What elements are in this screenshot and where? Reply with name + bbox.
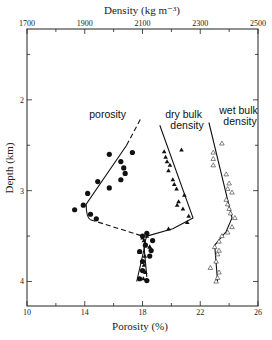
top-tick-label: 1700 <box>19 19 35 28</box>
porosity-point <box>150 238 155 243</box>
porosity-trend-dashed <box>91 220 143 236</box>
wet-density-trend-line <box>209 123 232 282</box>
dry-density-point <box>181 206 186 210</box>
series-label-wet-bulk: wet bulk density <box>218 104 260 127</box>
wet-density-point <box>208 265 213 269</box>
dry-density-point <box>166 226 171 230</box>
dry-density-point <box>186 214 191 218</box>
top-tick-label: 1900 <box>77 19 93 28</box>
left-tick-label: 3 <box>20 187 24 196</box>
porosity-point <box>130 150 135 155</box>
left-tick-label: 4 <box>20 277 24 286</box>
bottom-tick-label: 18 <box>139 308 147 317</box>
top-tick-label: 2300 <box>192 19 208 28</box>
dry-density-point <box>168 163 173 167</box>
labels: Density (kg m⁻³) Porosity (%) Depth (km)… <box>3 4 261 333</box>
wet-density-point <box>227 206 232 210</box>
dry-density-point <box>171 177 176 181</box>
wet-density-point <box>212 245 217 249</box>
dry-density-point <box>176 199 181 203</box>
porosity-point <box>118 177 123 182</box>
wet-density-point <box>230 225 235 229</box>
porosity-point <box>149 248 154 253</box>
bottom-tick-label: 26 <box>254 308 262 317</box>
wet-density-point <box>217 270 222 274</box>
chart: 170019002100230025001014182226234 Densit… <box>0 0 272 340</box>
wet-density-point <box>233 216 238 220</box>
bottom-tick-label: 22 <box>196 308 204 317</box>
porosity-point <box>72 207 77 212</box>
wet-density-point <box>225 186 230 190</box>
bottom-axis-title: Porosity (%) <box>112 320 168 333</box>
porosity-point <box>144 278 149 283</box>
porosity-trend-dashed <box>127 118 142 145</box>
wet-density-point <box>224 172 229 176</box>
wet-density-point <box>227 181 232 185</box>
dry-density-point <box>175 203 180 207</box>
left-tick-label: 2 <box>20 96 24 105</box>
series-layer <box>72 118 237 283</box>
top-axis-title: Density (kg m⁻³) <box>104 4 180 17</box>
wet-density-point <box>211 156 216 160</box>
wet-density-point <box>220 141 225 145</box>
bottom-tick-label: 14 <box>81 308 89 317</box>
left-axis-title: Depth (km) <box>3 142 16 193</box>
dry-density-point <box>163 155 168 159</box>
series-label-dry-line2: density <box>170 119 204 131</box>
porosity-point <box>81 203 86 208</box>
dry-density-point <box>174 186 179 190</box>
bottom-tick-label: 10 <box>23 308 31 317</box>
porosity-point <box>147 253 152 258</box>
wet-density-point <box>228 211 233 215</box>
dry-density-point <box>147 245 152 249</box>
wet-density-point <box>211 150 216 154</box>
porosity-point <box>107 185 112 190</box>
porosity-point <box>94 216 99 221</box>
porosity-point <box>123 171 128 176</box>
dry-density-point <box>166 168 171 172</box>
series-label-wet-line2: density <box>223 115 257 127</box>
porosity-point <box>107 152 112 157</box>
wet-density-point <box>225 202 230 206</box>
porosity-point <box>95 179 100 184</box>
plot-border <box>27 29 258 306</box>
plot-frame <box>27 29 258 306</box>
wet-density-point <box>214 259 219 263</box>
series-label-dry-bulk: dry bulk density <box>165 108 205 131</box>
porosity-point <box>118 159 123 164</box>
dry-density-point <box>162 149 167 153</box>
dry-density-point <box>179 147 184 151</box>
dry-density-point <box>172 182 177 186</box>
porosity-point <box>85 191 90 196</box>
porosity-point <box>137 276 142 281</box>
top-tick-label: 2100 <box>135 19 151 28</box>
porosity-point <box>88 212 93 217</box>
series-label-porosity: porosity <box>89 108 127 120</box>
wet-density-point <box>211 163 216 167</box>
dry-density-point <box>182 193 187 197</box>
dry-density-point <box>165 159 170 163</box>
porosity-point <box>140 259 145 264</box>
top-tick-label: 2500 <box>250 19 266 28</box>
porosity-point <box>121 165 126 170</box>
porosity-trend-line <box>86 145 126 219</box>
